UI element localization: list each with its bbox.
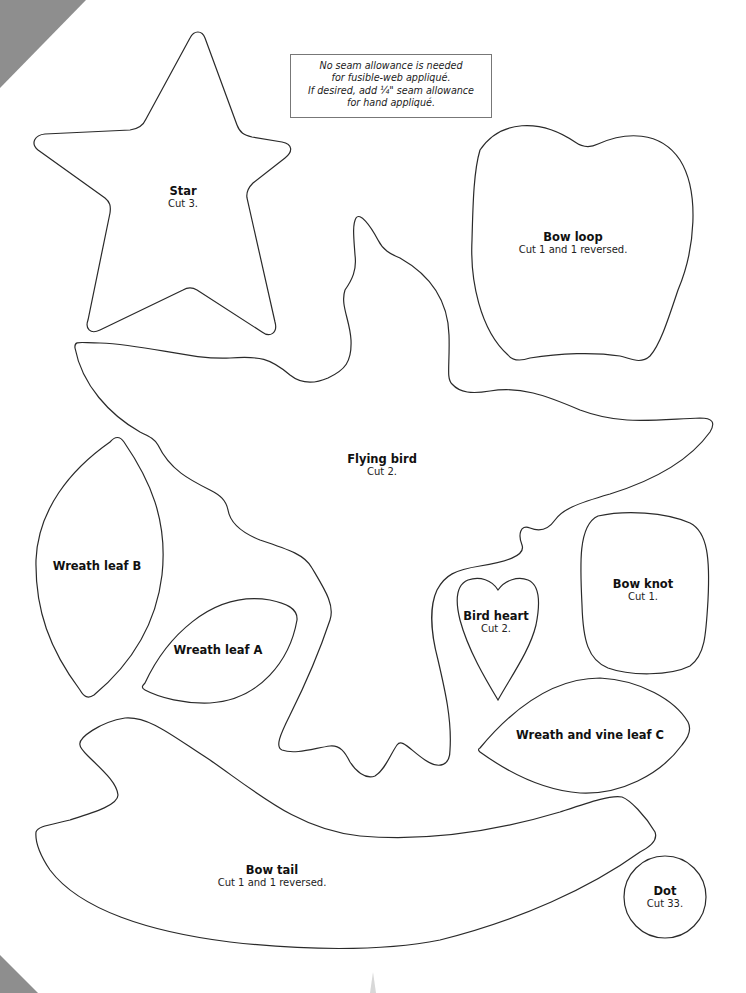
applique-pattern-sheet: No seam allowance is needed for fusible-… [0,0,746,993]
bow-knot-cut: Cut 1. [613,591,674,603]
dot-label: Dot Cut 33. [647,885,683,910]
bow-knot-name: Bow knot [613,578,674,591]
bird-heart-cut: Cut 2. [463,623,529,635]
bow-loop-label: Bow loop Cut 1 and 1 reversed. [519,231,628,256]
flying-bird-label: Flying bird Cut 2. [347,453,417,478]
bird-heart-label: Bird heart Cut 2. [463,610,529,635]
wreath-leaf-a-name: Wreath leaf A [174,644,263,657]
bird-heart-name: Bird heart [463,610,529,623]
bow-loop-cut: Cut 1 and 1 reversed. [519,244,628,256]
star-name: Star [168,185,198,198]
bow-tail-label: Bow tail Cut 1 and 1 reversed. [218,864,327,889]
wreath-vine-leaf-c-label: Wreath and vine leaf C [516,729,664,742]
seam-allowance-note: No seam allowance is needed for fusible-… [290,54,492,118]
wreath-leaf-a-label: Wreath leaf A [174,644,263,657]
pattern-shapes [0,0,746,993]
flying-bird-name: Flying bird [347,453,417,466]
dot-cut: Cut 33. [647,898,683,910]
bow-tail-cut: Cut 1 and 1 reversed. [218,877,327,889]
note-line-1: No seam allowance is needed [291,60,491,72]
star-shape [34,32,291,335]
dot-name: Dot [647,885,683,898]
note-line-4: for hand appliqué. [291,97,491,109]
star-label: Star Cut 3. [168,185,198,210]
flying-bird-cut: Cut 2. [347,466,417,478]
wreath-vine-leaf-c-name: Wreath and vine leaf C [516,729,664,742]
bow-tail-name: Bow tail [218,864,327,877]
wreath-leaf-b-name: Wreath leaf B [53,560,142,573]
bottom-left-corner-texture [0,955,38,993]
note-line-2: for fusible-web appliqué. [291,72,491,84]
top-left-corner-texture [0,0,86,88]
bird-heart-shape [457,578,538,700]
wreath-leaf-b-label: Wreath leaf B [53,560,142,573]
note-line-3: If desired, add ¼" seam allowance [291,85,491,97]
bow-loop-name: Bow loop [519,231,628,244]
bow-knot-label: Bow knot Cut 1. [613,578,674,603]
bottom-center-marker [370,972,376,993]
star-cut: Cut 3. [168,198,198,210]
